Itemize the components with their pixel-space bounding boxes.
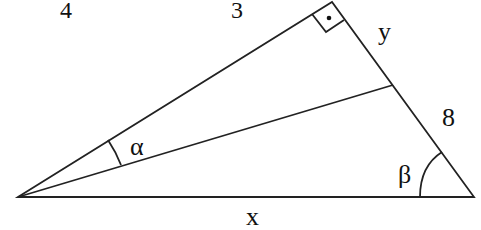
alpha-angle-arc	[108, 140, 121, 165]
label-x: x	[246, 202, 259, 230]
beta-angle-arc	[420, 152, 442, 197]
triangle-diagram: 4 3 y 8 α β x	[0, 0, 481, 230]
label-beta: β	[398, 160, 411, 189]
label-y: y	[378, 17, 391, 46]
right-angle-marker	[312, 14, 344, 32]
label-8: 8	[442, 103, 455, 132]
label-3: 3	[231, 0, 243, 23]
inner-segment	[18, 85, 393, 197]
label-alpha: α	[130, 132, 144, 161]
label-4: 4	[60, 0, 72, 23]
